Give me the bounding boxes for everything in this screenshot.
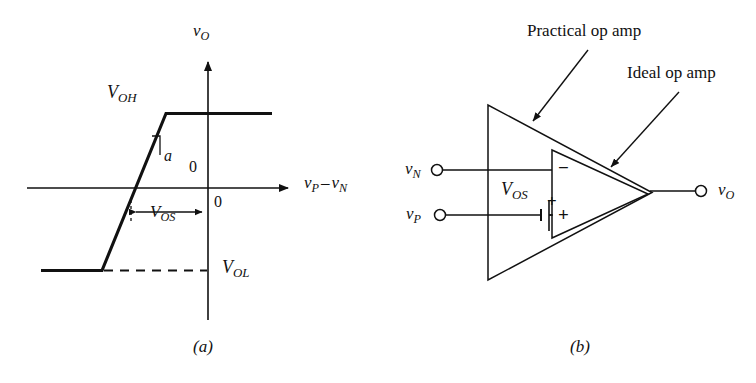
input-p-label-main: v xyxy=(406,204,414,223)
output-label-main: v xyxy=(718,180,726,199)
annotation-ideal-op-amp: Ideal op amp xyxy=(627,64,716,81)
slope-label: a xyxy=(164,148,172,164)
vos-label-panel-a: VOS xyxy=(150,203,175,223)
input-n-label-sub: N xyxy=(413,167,421,181)
annotation-practical-op-amp: Practical op amp xyxy=(527,22,641,39)
vol-label-main: V xyxy=(222,257,233,277)
x-axis-label: vP–vN xyxy=(304,174,347,194)
figure-canvas: vO vP–vN VOH VOL VOS a 0 0 (a) Practical… xyxy=(0,0,756,383)
inverting-input-terminal xyxy=(432,165,443,176)
battery-plus-sign: + xyxy=(547,193,557,210)
output-terminal xyxy=(696,186,707,197)
input-n-label: vN xyxy=(405,160,421,180)
panel-b-caption: (b) xyxy=(570,338,590,355)
y-axis-label-main: v xyxy=(193,21,201,40)
input-p-label-sub: P xyxy=(414,212,421,226)
x-axis-label-vn-main: v xyxy=(332,173,340,192)
vos-label-b-sub: OS xyxy=(512,187,528,202)
vos-label-b-main: V xyxy=(501,179,512,199)
practical-annotation-arrow xyxy=(533,50,588,121)
noninverting-input-terminal xyxy=(435,210,446,221)
inverting-input-sign: − xyxy=(558,158,569,177)
ideal-annotation-arrow xyxy=(611,92,679,167)
voh-label: VOH xyxy=(107,83,137,105)
figure-svg xyxy=(0,0,756,383)
noninverting-input-sign: + xyxy=(558,205,569,224)
voh-label-main: V xyxy=(107,82,118,102)
zero-label-lower: 0 xyxy=(214,194,222,210)
vol-label-sub: OL xyxy=(233,265,250,280)
panel-a-caption-text: a xyxy=(199,337,208,356)
transfer-characteristic-curve xyxy=(41,114,272,271)
x-axis-label-vp-main: v xyxy=(304,173,312,192)
vos-label-a-sub: OS xyxy=(160,210,175,224)
vos-label-a-main: V xyxy=(150,202,160,221)
x-axis-label-vn-sub: N xyxy=(339,181,347,195)
x-axis-label-minus: – xyxy=(321,173,330,192)
output-label-sub: O xyxy=(726,188,735,202)
voh-label-sub: OH xyxy=(118,90,137,105)
vol-label: VOL xyxy=(222,258,250,280)
input-n-label-main: v xyxy=(405,159,413,178)
x-axis-label-vp-sub: P xyxy=(312,181,319,195)
panel-a-caption: (a) xyxy=(193,338,213,355)
input-p-label: vP xyxy=(406,205,421,225)
zero-label-upper: 0 xyxy=(189,159,197,175)
panel-b-caption-text: b xyxy=(576,337,585,356)
panel-a-graph xyxy=(27,62,288,320)
panel-b-circuit xyxy=(432,50,707,280)
output-label: vO xyxy=(718,181,734,201)
y-axis-label: vO xyxy=(193,22,209,42)
y-axis-label-sub: O xyxy=(201,29,210,43)
vos-label-panel-b: VOS xyxy=(501,180,528,202)
